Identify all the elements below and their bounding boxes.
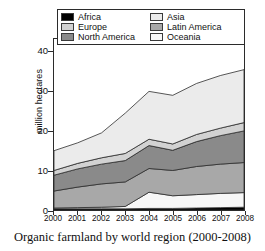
plot-area xyxy=(53,38,245,211)
x-tick-mark xyxy=(101,211,102,215)
legend-label: Africa xyxy=(78,13,101,22)
legend-item-latin-america: Latin America xyxy=(150,22,241,32)
legend-item-oceania: Oceania xyxy=(150,32,241,42)
y-tick-label: 30 xyxy=(26,86,48,96)
stacked-area-svg xyxy=(54,39,244,210)
legend-label: North America xyxy=(78,33,135,42)
legend-label: Asia xyxy=(167,13,185,22)
x-tick-label: 2007 xyxy=(212,214,230,223)
x-tick-mark xyxy=(173,211,174,215)
y-tick-mark xyxy=(48,51,53,52)
y-tick-mark xyxy=(48,131,53,132)
legend-swatch-icon xyxy=(61,33,74,41)
x-tick-mark xyxy=(53,211,54,215)
x-tick-label: 2008 xyxy=(236,214,254,223)
chart-figure: million hectares 010203040 AfricaEuropeN… xyxy=(0,0,265,251)
y-axis: million hectares 010203040 xyxy=(22,0,48,228)
x-axis: 200020012002200320042005200620072008 xyxy=(53,214,245,226)
x-tick-label: 2005 xyxy=(164,214,182,223)
x-tick-mark xyxy=(77,211,78,215)
y-tick-label: 40 xyxy=(26,46,48,56)
legend-swatch-icon xyxy=(150,33,163,41)
legend-label: Latin America xyxy=(167,23,222,32)
x-tick-label: 2002 xyxy=(92,214,110,223)
legend-column-left: AfricaEuropeNorth America xyxy=(61,12,146,42)
legend-item-asia: Asia xyxy=(150,12,241,22)
x-tick-mark xyxy=(245,211,246,215)
y-tick-mark xyxy=(48,171,53,172)
legend: AfricaEuropeNorth America AsiaLatin Amer… xyxy=(57,9,245,45)
plot-clip xyxy=(54,39,244,210)
x-tick-mark xyxy=(125,211,126,215)
x-tick-label: 2004 xyxy=(140,214,158,223)
x-tick-mark xyxy=(197,211,198,215)
legend-item-europe: Europe xyxy=(61,22,146,32)
legend-label: Oceania xyxy=(167,33,201,42)
x-tick-mark xyxy=(221,211,222,215)
legend-swatch-icon xyxy=(61,13,74,21)
plot-region: million hectares 010203040 AfricaEuropeN… xyxy=(0,0,265,228)
legend-swatch-icon xyxy=(61,23,74,31)
legend-item-africa: Africa xyxy=(61,12,146,22)
legend-item-north-america: North America xyxy=(61,32,146,42)
legend-swatch-icon xyxy=(150,13,163,21)
figure-caption: Organic farmland by world region (2000-2… xyxy=(0,230,265,245)
y-tick-mark xyxy=(48,91,53,92)
y-axis-title: million hectares xyxy=(34,46,44,156)
x-tick-label: 2003 xyxy=(116,214,134,223)
y-tick-label: 10 xyxy=(26,166,48,176)
legend-column-right: AsiaLatin AmericaOceania xyxy=(150,12,241,42)
x-tick-label: 2006 xyxy=(188,214,206,223)
x-tick-label: 2001 xyxy=(68,214,86,223)
legend-label: Europe xyxy=(78,23,107,32)
x-tick-label: 2000 xyxy=(44,214,62,223)
x-tick-mark xyxy=(149,211,150,215)
legend-swatch-icon xyxy=(150,23,163,31)
y-tick-label: 20 xyxy=(26,126,48,136)
